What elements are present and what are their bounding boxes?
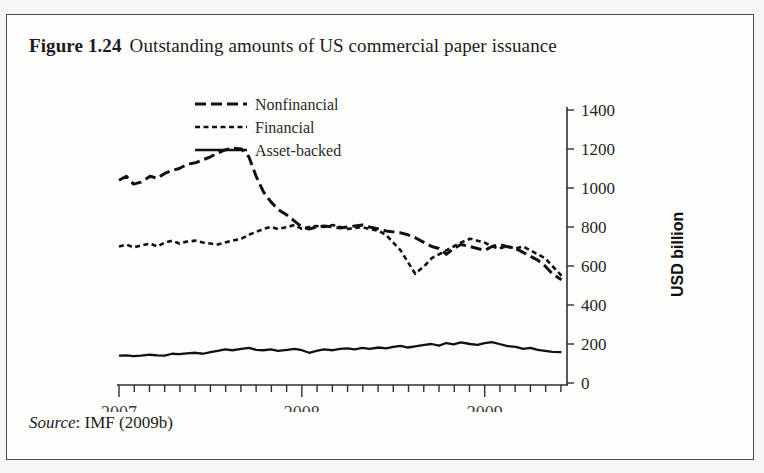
- y-axis: 0200400600800100012001400: [567, 101, 615, 393]
- source-note: Source: IMF (2009b): [29, 413, 173, 433]
- series-line-asset-backed: [119, 342, 562, 356]
- figure-container: Figure 1.24Outstanding amounts of US com…: [6, 14, 754, 460]
- y-tick-label: 400: [581, 296, 607, 315]
- line-chart: 0200400600800100012001400USD billion2007…: [7, 67, 755, 412]
- source-text: : IMF (2009b): [76, 413, 173, 432]
- x-tick-label: 2007: [101, 403, 137, 412]
- legend-label-asset-backed: Asset-backed: [255, 142, 341, 159]
- figure-title-text: Outstanding amounts of US commercial pap…: [122, 35, 557, 56]
- y-tick-label: 1000: [581, 179, 615, 198]
- series-line-financial: [119, 225, 562, 276]
- series-group: [119, 148, 562, 356]
- y-tick-label: 600: [581, 257, 607, 276]
- legend-label-nonfinancial: Nonfinancial: [255, 96, 339, 113]
- y-axis-title: USD billion: [669, 212, 686, 297]
- source-label: Source: [29, 413, 76, 432]
- x-tick-label: 2008: [284, 403, 320, 412]
- figure-number: Figure 1.24: [29, 35, 122, 56]
- chart-plot-area: 0200400600800100012001400USD billion2007…: [7, 67, 755, 412]
- y-tick-label: 200: [581, 335, 607, 354]
- y-tick-label: 800: [581, 218, 607, 237]
- y-tick-label: 1400: [581, 101, 615, 120]
- figure-title: Figure 1.24Outstanding amounts of US com…: [29, 35, 557, 57]
- y-axis-title-text: USD billion: [669, 212, 686, 297]
- y-tick-label: 1200: [581, 140, 615, 159]
- y-tick-label: 0: [581, 374, 590, 393]
- chart-legend: NonfinancialFinancialAsset-backed: [195, 96, 341, 159]
- x-axis: 200720082009: [101, 385, 568, 412]
- x-tick-label: 2009: [467, 403, 503, 412]
- series-line-nonfinancial: [119, 148, 562, 280]
- legend-label-financial: Financial: [255, 119, 315, 136]
